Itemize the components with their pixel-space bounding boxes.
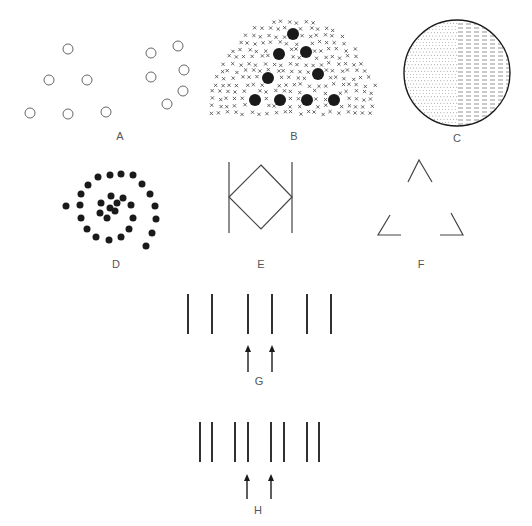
cross-mark <box>227 84 230 87</box>
texture-dot <box>404 122 405 123</box>
texture-dot <box>428 87 429 88</box>
texture-dot <box>428 64 429 65</box>
texture-dot <box>442 93 443 94</box>
cross-mark <box>355 69 358 72</box>
texture-dot <box>442 68 443 69</box>
texture-dot <box>426 36 427 37</box>
texture-dot <box>426 20 427 21</box>
texture-dot <box>423 125 424 126</box>
spiral-dot <box>93 234 100 241</box>
cross-mark <box>252 83 255 86</box>
triangle-corner <box>408 160 432 182</box>
spiral-dot <box>63 203 70 210</box>
texture-dot <box>442 77 443 78</box>
cross-mark <box>299 82 302 85</box>
texture-dot <box>445 61 446 62</box>
texture-dot <box>442 45 443 46</box>
texture-dot <box>418 48 419 49</box>
texture-dot <box>434 87 435 88</box>
texture-dot <box>405 119 406 120</box>
texture-dot <box>426 100 427 101</box>
texture-dot <box>432 93 433 94</box>
texture-dot <box>437 96 438 97</box>
texture-dot <box>429 45 430 46</box>
spiral-dot <box>107 172 114 179</box>
spiral-dot <box>78 191 85 198</box>
texture-dot <box>450 112 451 113</box>
texture-dot <box>455 109 456 110</box>
spiral-dot <box>130 172 137 179</box>
texture-dot <box>423 58 424 59</box>
texture-dot <box>423 77 424 78</box>
cross-mark <box>269 41 272 44</box>
texture-dot <box>423 100 424 101</box>
texture-dot <box>407 20 408 21</box>
cross-mark <box>309 35 312 38</box>
cross-mark <box>303 77 306 80</box>
texture-dot <box>455 52 456 53</box>
texture-dot <box>423 29 424 30</box>
texture-dot <box>405 23 406 24</box>
texture-dot <box>456 103 457 104</box>
panel-d-spiral <box>63 171 160 250</box>
label-h: H <box>254 504 262 516</box>
cross-mark <box>215 75 218 78</box>
texture-dot <box>429 116 430 117</box>
spiral-dot <box>143 243 150 250</box>
cross-mark <box>231 62 234 65</box>
cross-mark <box>294 47 297 50</box>
texture-dot <box>447 96 448 97</box>
texture-dot <box>448 52 449 53</box>
texture-dot <box>452 45 453 46</box>
texture-dot <box>408 23 409 24</box>
texture-dot <box>416 26 417 27</box>
texture-dot <box>408 64 409 65</box>
texture-dot <box>445 20 446 21</box>
cross-mark <box>214 84 217 87</box>
texture-dot <box>442 58 443 59</box>
cross-mark <box>354 105 357 108</box>
texture-dot <box>434 55 435 56</box>
label-c: C <box>453 132 461 144</box>
texture-dot <box>426 68 427 69</box>
texture-dot <box>442 125 443 126</box>
texture-dot <box>420 42 421 43</box>
texture-dot <box>424 112 425 113</box>
texture-dot <box>412 55 413 56</box>
texture-dot <box>437 48 438 49</box>
texture-dot <box>418 103 419 104</box>
cross-mark <box>337 63 340 66</box>
texture-dot <box>439 125 440 126</box>
texture-dot <box>452 58 453 59</box>
cross-mark <box>315 34 318 37</box>
texture-dot <box>448 106 449 107</box>
texture-dot <box>424 32 425 33</box>
texture-dot <box>416 84 417 85</box>
big-dot <box>273 48 285 60</box>
cross-mark <box>324 33 327 36</box>
texture-dot <box>455 29 456 30</box>
texture-dot <box>408 103 409 104</box>
cross-mark <box>320 63 323 66</box>
texture-dot <box>426 109 427 110</box>
texture-dot <box>420 106 421 107</box>
cross-mark <box>267 104 270 107</box>
panel-h-paired-lines <box>200 422 319 499</box>
texture-dot <box>432 84 433 85</box>
texture-dot <box>412 87 413 88</box>
cross-mark <box>219 98 222 101</box>
cross-mark <box>217 111 220 114</box>
texture-dot <box>440 112 441 113</box>
cross-mark <box>222 77 225 80</box>
cross-mark <box>316 105 319 108</box>
cross-mark <box>325 41 328 44</box>
texture-dot <box>432 106 433 107</box>
texture-dot <box>444 32 445 33</box>
texture-dot <box>445 74 446 75</box>
texture-dot <box>412 48 413 49</box>
texture-dot <box>420 26 421 27</box>
texture-dot <box>429 84 430 85</box>
cross-mark <box>346 54 349 57</box>
texture-dot <box>436 61 437 62</box>
texture-dot <box>423 106 424 107</box>
